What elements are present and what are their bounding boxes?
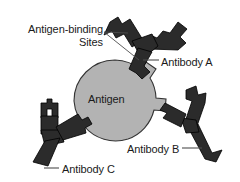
antigen-binding-sites-label: Antigen-bindingSites — [9, 23, 103, 48]
antigen-binding-sites-line1: Antigen-binding — [28, 23, 103, 35]
antigen-binding-sites-line2: Sites — [79, 36, 103, 48]
antigen-label: Antigen — [88, 93, 125, 106]
antibody-c-label: Antibody C — [62, 163, 115, 176]
antibody-b-label: Antibody B — [127, 143, 179, 156]
antibody-a-label: Antibody A — [161, 56, 213, 69]
antibody-antigen-diagram: Antigen-bindingSites Antigen Antibody A … — [0, 0, 240, 182]
